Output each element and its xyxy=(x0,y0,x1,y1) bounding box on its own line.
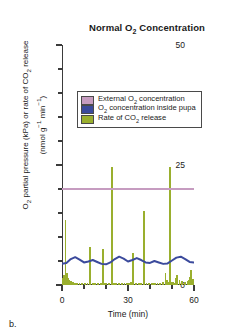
figure-panel-b: Normal O2 Concentration O2 partial press… xyxy=(0,0,237,336)
chart-title: Normal O2 Concentration xyxy=(62,22,232,35)
x-tick-major xyxy=(127,285,128,291)
x-tick-minor xyxy=(149,285,150,289)
x-tick-major xyxy=(193,285,194,291)
series-layer xyxy=(62,45,194,285)
x-tick-minor xyxy=(83,285,84,289)
internal-o2-line xyxy=(62,45,194,285)
chart-legend: External O2 concentration O2 concentrati… xyxy=(77,91,202,128)
legend-label-co2-release: Rate of CO2 release xyxy=(98,113,166,126)
y-axis-title: O2 partial pressure (kPa) or rate of CO2… xyxy=(21,5,47,245)
legend-swatch-external-o2 xyxy=(81,96,94,105)
plot-area: 0255003060 Time (min) xyxy=(62,45,194,285)
x-tick-minor xyxy=(105,285,106,289)
x-axis-title: Time (min) xyxy=(62,309,194,319)
y-axis-title-line-1: O2 partial pressure (kPa) or rate of CO2… xyxy=(21,5,34,245)
x-tick-label: 30 xyxy=(123,295,132,305)
x-tick-minor xyxy=(171,285,172,289)
panel-letter: b. xyxy=(9,319,17,329)
x-tick-label: 0 xyxy=(60,295,65,305)
y-axis-title-line-2: (nmol g−1 min−1) xyxy=(34,5,48,245)
legend-swatch-co2-release xyxy=(81,115,94,124)
x-tick-major xyxy=(61,285,62,291)
legend-item-co2-release: Rate of CO2 release xyxy=(81,115,196,124)
x-tick-label: 60 xyxy=(189,295,198,305)
legend-swatch-internal-o2 xyxy=(81,105,94,114)
